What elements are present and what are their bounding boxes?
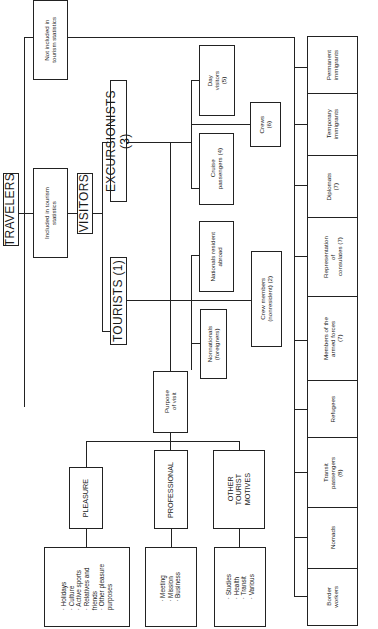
connector [191,124,250,125]
diplomats-node: Diplomats (7) [307,155,358,218]
other-motives-node: OTHER TOURIST MOTIVES [213,450,265,529]
nonnationals-label: Nonnationals (foreigners) [206,326,220,362]
connector [294,124,308,125]
connector [294,472,308,473]
travelers-node: TRAVELERS [3,173,19,246]
category-label: Permanent immigrants [325,50,339,80]
nationals-resident-abroad-node: Nationals resident abroad [199,221,234,292]
connector [86,441,240,442]
cruise-passengers-node: Cruise passengers (4) [199,133,234,205]
crews-label: Crews (6) [258,116,272,134]
nomads-node: Nomads [307,507,358,569]
not-included-label: Not included in tourism statistics [43,17,57,63]
connector [86,441,87,468]
crew-members-node: Crew members (nonresident) (2) [251,251,282,347]
category-label: Refugees [329,396,336,423]
travelers-label: TRAVELERS [4,173,18,246]
refugees-node: Refugees [307,380,358,438]
armed-forces-node: Members of the armed forces (7) [307,296,358,381]
connector [170,142,171,372]
pleasure-items: · Holidays · Culture · Active sports · R… [60,564,114,610]
connector [294,596,308,597]
nonnationals-node: Nonnationals (foreigners) [200,309,227,379]
professional-node: PROFESSIONAL [154,450,188,529]
pleasure-label: PLEASURE [82,479,90,517]
visitors-label: VISITORS [78,174,92,232]
connector [191,343,200,344]
category-label: Diplomats (7) [325,173,339,201]
temporary-immigrants-node: Temporary immigrants [307,93,358,156]
category-label: Nomads [329,526,336,549]
purpose-of-visit-label: Purpose of visit [163,390,177,413]
tourists-node: TOURISTS (1) [110,257,127,345]
connector [294,340,308,341]
connector [93,213,102,214]
excursionists-node: EXCURSIONISTS (3) [110,80,127,202]
other-motives-label: OTHER TOURIST MOTIVES [227,473,252,505]
purpose-of-visit-node: Purpose of visit [153,371,188,433]
tourists-label: TOURISTS (1) [112,260,126,342]
connector [18,213,34,214]
connector [171,528,172,547]
cruise-passengers-label: Cruise passengers (4) [209,148,223,189]
category-label: Representation of consulates (7) [322,236,343,278]
connector [294,409,308,410]
other-motives-items: · Studies · Health · Transit · Various [225,574,256,599]
connector [294,67,308,68]
category-label: Border workers [325,586,339,608]
visitors-node: VISITORS [77,173,93,234]
connector [294,37,295,597]
not-included-node: Not included in tourism statistics [33,0,68,80]
other-motives-list: · Studies · Health · Transit · Various [214,547,266,627]
connector [294,256,308,257]
permanent-immigrants-node: Permanent immigrants [307,36,358,94]
category-label: Temporary immigrants [325,109,339,139]
connector [127,142,191,143]
professional-list: · Meeting · Mission · Business [145,547,197,627]
day-visitors-node: Day visitors (5) [199,45,235,116]
connector [24,37,25,407]
connector [191,255,192,370]
connector [191,80,192,189]
connector [127,300,251,301]
category-label: Members of the armed forces (7) [322,317,343,360]
pleasure-list: · Holidays · Culture · Active sports · R… [44,547,130,627]
included-label: Included in tourism statistics [43,187,57,239]
connector [68,37,294,38]
included-node: Included in tourism statistics [33,168,68,258]
connector [294,185,308,186]
category-label: Transit passengers (8) [322,457,343,489]
transit-passengers-node: Transit passengers (8) [307,437,358,508]
pleasure-node: PLEASURE [69,467,103,529]
connector [170,432,171,450]
nationals-resident-abroad-label: Nationals resident abroad [209,232,223,282]
connector [102,142,103,332]
professional-items: · Meeting · Mission · Business [159,572,182,602]
professional-label: PROFESSIONAL [167,462,175,518]
connector [239,528,240,547]
crew-members-label: Crew members (nonresident) (2) [259,276,273,322]
crews-node: Crews (6) [250,102,281,147]
consulates-node: Representation of consulates (7) [307,217,358,297]
day-visitors-label: Day visitors (5) [206,71,227,90]
connector [294,537,308,538]
border-workers-node: Border workers [307,568,358,626]
excursionists-label: EXCURSIONISTS (3) [105,81,133,201]
connector [86,528,87,547]
